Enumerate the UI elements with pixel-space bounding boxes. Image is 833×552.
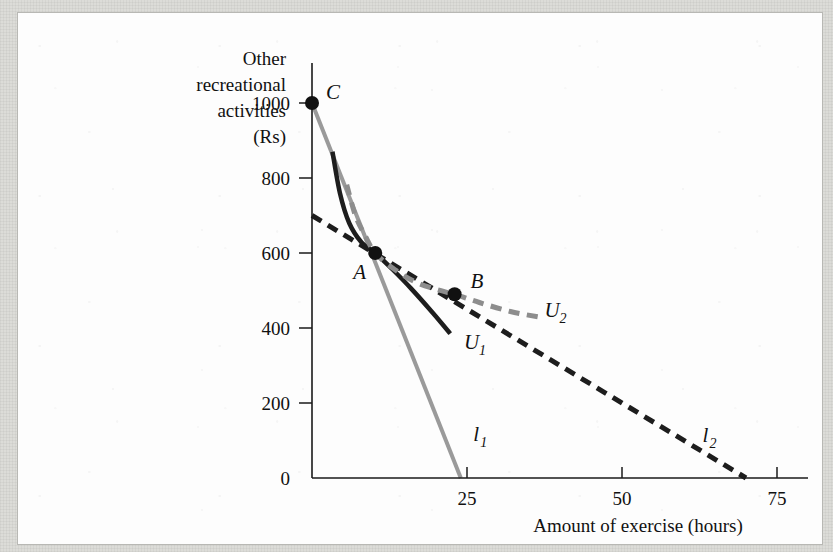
curve-label-subscript-l_1: 1 bbox=[480, 435, 487, 450]
y-tick-label-0: 0 bbox=[281, 468, 291, 489]
y-tick-label-400: 400 bbox=[262, 318, 291, 339]
page-background: 02004006008001000 255075 CAB l1l2U1U2 Am… bbox=[0, 0, 833, 552]
series-layer bbox=[312, 103, 746, 478]
curve-label-text-l_1: l bbox=[473, 422, 479, 446]
y-tick-label-800: 800 bbox=[262, 168, 291, 189]
y-axis-title-line-0: Other bbox=[243, 48, 287, 69]
y-axis-title-line-2: activities bbox=[217, 100, 286, 121]
x-tick-label-50: 50 bbox=[613, 488, 632, 509]
economics-indifference-curve-chart: 02004006008001000 255075 CAB l1l2U1U2 Am… bbox=[18, 13, 824, 546]
y-axis-title-line-3: (Rs) bbox=[253, 126, 286, 148]
y-axis-ticks: 02004006008001000 bbox=[252, 93, 312, 489]
y-tick-label-600: 600 bbox=[262, 243, 291, 264]
data-point-A bbox=[368, 246, 382, 260]
axis-titles-layer: Amount of exercise (hours) Otherrecreati… bbox=[196, 48, 742, 537]
axes-layer: 02004006008001000 255075 bbox=[252, 63, 808, 509]
curve-label-subscript-l_2: 2 bbox=[710, 436, 717, 451]
data-point-label-C: C bbox=[326, 80, 341, 104]
data-point-C bbox=[305, 96, 319, 110]
x-tick-label-75: 75 bbox=[768, 488, 787, 509]
figure-panel: 02004006008001000 255075 CAB l1l2U1U2 Am… bbox=[17, 12, 823, 545]
x-tick-label-25: 25 bbox=[458, 488, 477, 509]
curve-label-subscript-U_2: 2 bbox=[560, 311, 567, 326]
curve-labels-layer: l1l2U1U2 bbox=[464, 298, 717, 452]
curve-label-l_2: l2 bbox=[703, 423, 717, 451]
data-point-B bbox=[448, 287, 462, 301]
y-tick-label-200: 200 bbox=[262, 393, 291, 414]
curve-label-l_1: l1 bbox=[473, 422, 487, 450]
data-point-label-B: B bbox=[471, 269, 484, 293]
curve-label-U_1: U1 bbox=[464, 330, 486, 358]
x-axis-ticks: 255075 bbox=[458, 467, 787, 509]
y-axis-title-line-1: recreational bbox=[196, 74, 286, 95]
curve-label-text-l_2: l bbox=[703, 423, 709, 447]
curve-label-U_2: U2 bbox=[545, 298, 567, 326]
x-axis-title: Amount of exercise (hours) bbox=[533, 515, 742, 537]
data-point-label-A: A bbox=[351, 260, 366, 284]
curve-label-subscript-U_1: 1 bbox=[479, 343, 486, 358]
